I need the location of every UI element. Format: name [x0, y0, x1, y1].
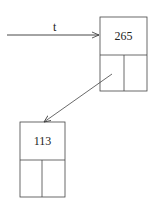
node-root: 265: [100, 17, 147, 91]
pointer-t: t: [7, 20, 99, 35]
pointer-label: t: [53, 20, 57, 34]
tree-diagram: t 265 113: [0, 0, 158, 206]
node-key: 113: [34, 134, 52, 148]
left-child-pointer: [44, 74, 112, 122]
node-left-child: 113: [20, 122, 65, 197]
node-key: 265: [115, 29, 133, 43]
